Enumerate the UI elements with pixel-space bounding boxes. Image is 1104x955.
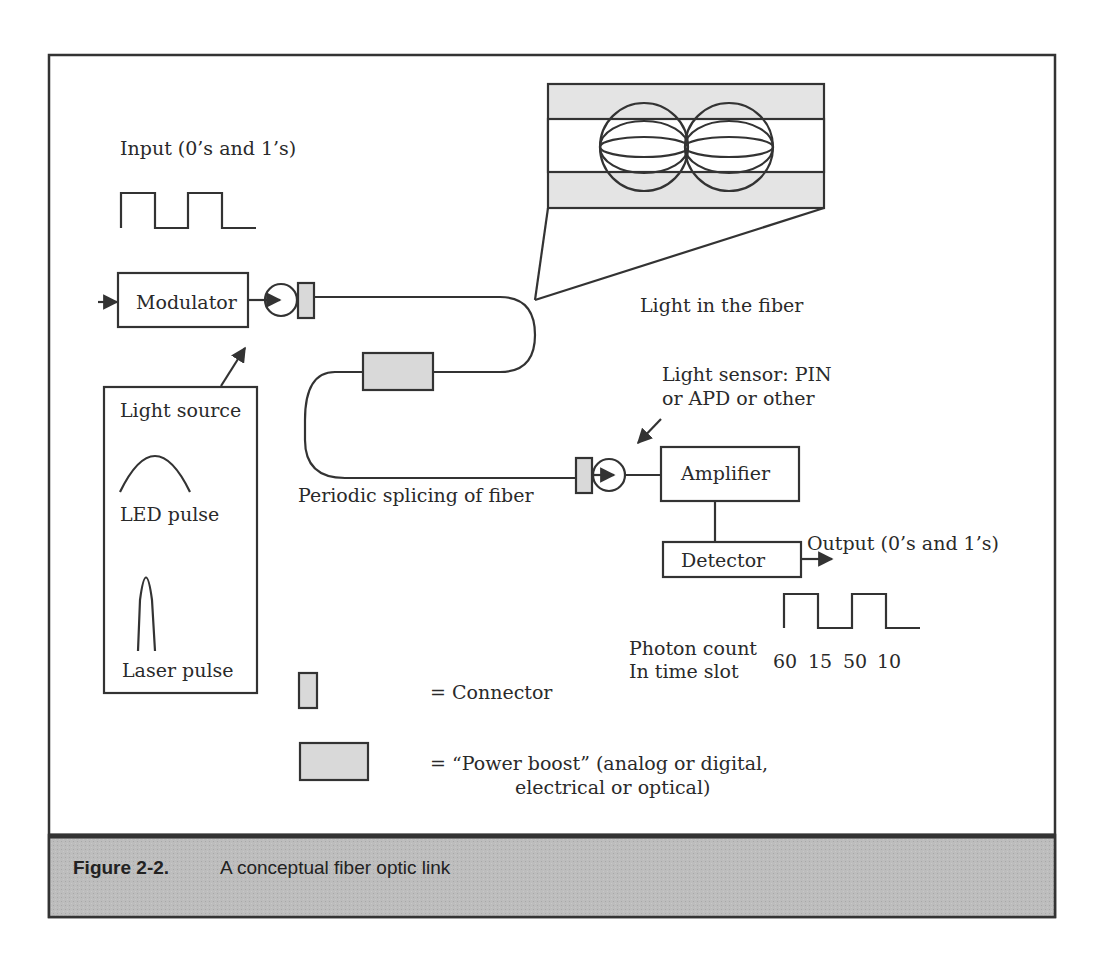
figure-caption: A conceptual fiber optic link [220,857,451,878]
splicing-label: Periodic splicing of fiber [298,484,535,506]
photon-count-label-2: In time slot [629,660,739,682]
photon-count-3: 50 [843,650,867,672]
light-in-fiber-label: Light in the fiber [640,294,804,316]
modulator-label: Modulator [136,291,238,313]
detector-label: Detector [681,549,766,571]
light-sensor-label-1: Light sensor: PIN [662,363,832,385]
legend-connector-icon [299,673,317,708]
laser-pulse-label: Laser pulse [122,659,234,681]
connector-tx [298,283,314,318]
fiber-optic-link-figure: Figure 2-2. A conceptual fiber optic lin… [0,0,1104,955]
legend-power-boost-label-2: electrical or optical) [515,776,710,798]
input-label: Input (0’s and 1’s) [120,137,296,159]
figure-number: Figure 2-2. [73,857,169,878]
amplifier-label: Amplifier [680,462,771,484]
led-pulse-label: LED pulse [120,503,219,525]
photon-count-4: 10 [877,650,901,672]
light-source-title: Light source [120,399,241,421]
legend-power-boost-icon [300,743,368,780]
fiber-cross-section [548,84,824,208]
connector-rx [576,458,592,493]
legend-connector-label: = Connector [430,681,553,703]
photon-count-2: 15 [808,650,832,672]
power-boost-amplifier [363,353,433,390]
light-sensor-label-2: or APD or other [662,387,815,409]
output-label: Output (0’s and 1’s) [807,532,999,554]
legend-power-boost-label-1: = “Power boost” (analog or digital, [430,752,768,774]
photon-count-1: 60 [773,650,797,672]
caption-bar: Figure 2-2. A conceptual fiber optic lin… [49,835,1055,917]
light-source-box [104,387,257,693]
photon-count-label-1: Photon count [629,637,757,659]
